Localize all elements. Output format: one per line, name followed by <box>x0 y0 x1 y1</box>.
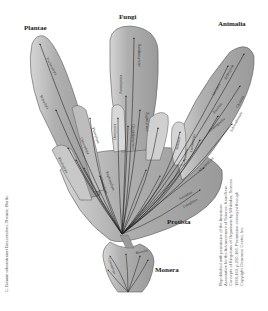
label-chytridiomycetes: Chytridiomycetes <box>131 124 135 150</box>
credit-left: C. Darwin rekonstruiert Deszendenz-Theor… <box>4 195 9 292</box>
credit-line: Copyright Clearance Center, Inc. <box>239 179 244 286</box>
label-basidiomycetes: Basidiomycetes <box>137 44 141 67</box>
credit-right: Republished with permission of the Ameri… <box>218 179 244 286</box>
label-oomycetes: Oomycetes <box>113 123 117 140</box>
kingdom-label-animalia: Animalia <box>218 20 246 28</box>
label-ascomycetes: Ascomycetes <box>119 74 123 94</box>
kingdom-label-plantae: Plantae <box>24 24 47 32</box>
credit-line: Concepts of Kingdoms of Organisms by Whi… <box>228 179 233 286</box>
kingdom-label-monera: Monera <box>155 266 179 274</box>
kingdom-label-protista: Protista <box>167 218 191 226</box>
kingdom-label-fungi: Fungi <box>119 13 137 21</box>
label-zygomycetes: Zygomycetes <box>145 112 149 132</box>
